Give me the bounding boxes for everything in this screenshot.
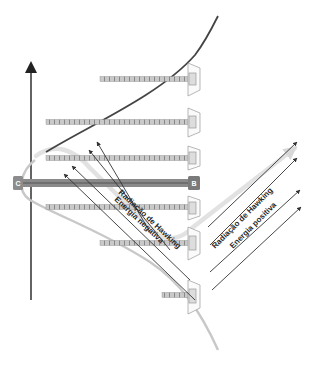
tag-c: C xyxy=(13,176,23,190)
axis-arrow-up-icon xyxy=(25,61,37,73)
svg-text:B: B xyxy=(191,180,196,187)
outward-arrows xyxy=(208,142,301,290)
hawking-radiation-diagram: C B Radiação de Hawking Energia negativa… xyxy=(0,0,314,370)
central-bar xyxy=(18,179,192,187)
svg-text:C: C xyxy=(15,180,20,187)
inward-arrows xyxy=(64,142,195,300)
tag-b: B xyxy=(188,176,200,190)
